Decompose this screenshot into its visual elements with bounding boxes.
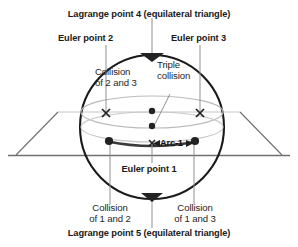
collision-1-3-line2: of 1 and 3	[174, 213, 216, 224]
lagrange-point-5-label: Lagrange point 5 (equilateral triangle)	[0, 228, 298, 238]
collision-2-3-line1: Collision	[95, 66, 130, 77]
triple-collision-marker	[149, 123, 155, 129]
collision-1-3-label: Collision of 1 and 3	[155, 203, 235, 224]
triple-collision-label: Triple collision	[157, 60, 190, 81]
triple-collision-line2: collision	[157, 70, 190, 81]
triple-collision-line1: Triple	[157, 59, 180, 70]
collision-2-3-line2: of 2 and 3	[95, 77, 137, 88]
collision-1-2-marker	[105, 137, 113, 145]
collision-1-3-line1: Collision	[177, 202, 212, 213]
plane-right-edge	[240, 112, 282, 155]
euler-point-1-label: Euler point 1	[0, 164, 298, 174]
plane-left-edge	[16, 112, 58, 155]
euler-point-3-label: Euler point 3	[171, 33, 226, 43]
lagrange-point-5-marker	[141, 193, 163, 202]
collision-1-2-label: Collision of 1 and 2	[70, 203, 150, 224]
euler-point-2-label: Euler point 2	[58, 33, 113, 43]
collision-2-3-marker	[149, 108, 155, 114]
lagrange-point-4-label: Lagrange point 4 (equilateral triangle)	[0, 9, 298, 19]
collision-2-3-label: Collision of 2 and 3	[95, 67, 137, 88]
leader-triple	[155, 94, 170, 124]
horizontal-plane	[8, 112, 290, 156]
arc-1-label: Arc-1	[160, 138, 183, 148]
collision-1-2-line2: of 1 and 2	[89, 213, 131, 224]
collision-1-2-line1: Collision	[92, 202, 127, 213]
